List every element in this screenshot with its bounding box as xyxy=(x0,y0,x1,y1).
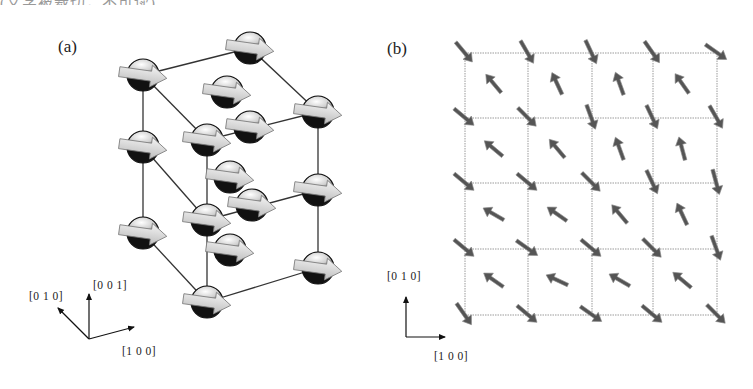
spin-arrow-icon xyxy=(545,136,569,161)
spin-arrow-icon xyxy=(480,203,506,225)
spin-arrow-icon xyxy=(451,104,478,129)
spin-arrow-icon xyxy=(451,235,478,260)
spin-arrow-icon xyxy=(705,103,728,131)
spin-arrow-icon xyxy=(642,103,663,131)
atom-sphere xyxy=(182,286,233,318)
panel-b-label: (b) xyxy=(387,39,407,59)
atom-sphere xyxy=(293,252,344,284)
spin-arrow-icon xyxy=(610,70,629,96)
axis-a-z-label: [0 0 1] xyxy=(93,279,127,291)
spin-arrow-icon xyxy=(671,71,694,97)
spin-arrow-icon xyxy=(707,168,724,196)
atom-sphere xyxy=(182,124,233,156)
atom-sphere xyxy=(118,217,169,249)
spin-arrow-icon xyxy=(608,201,632,226)
spin-arrow-icon xyxy=(639,235,665,261)
spin-arrow-icon xyxy=(482,71,506,96)
spin-arrow-icon xyxy=(481,137,506,161)
figure-canvas xyxy=(0,0,753,389)
atom-sphere xyxy=(182,204,233,236)
spin-arrow-icon xyxy=(639,301,666,326)
spin-arrow-icon xyxy=(451,169,478,194)
atom-sphere xyxy=(205,234,256,266)
spin-arrow-icon xyxy=(703,301,729,327)
spin-arrow-icon xyxy=(674,135,691,161)
atom-sphere xyxy=(225,32,276,64)
spin-arrow-icon xyxy=(547,70,567,96)
spin-arrow-icon xyxy=(669,268,694,292)
axis-b-y-label: [0 1 0] xyxy=(387,270,421,282)
spin-arrow-icon xyxy=(544,203,570,226)
spin-arrow-icon xyxy=(672,201,692,227)
spin-arrow-icon xyxy=(640,38,664,66)
spin-arrow-icon xyxy=(514,169,541,194)
axes-a xyxy=(58,294,134,339)
axis-b-x-label: [1 0 0] xyxy=(434,350,468,362)
spin-arrow-icon xyxy=(578,169,604,195)
atom-sphere xyxy=(293,174,344,206)
spin-arrow-icon xyxy=(702,40,730,64)
spin-arrow-icon xyxy=(606,269,632,291)
atom-sphere xyxy=(205,161,256,193)
atom-sphere xyxy=(227,189,278,221)
atom-sphere xyxy=(225,111,276,143)
spin-arrow-icon xyxy=(452,300,476,328)
axis-a-x-label: [1 0 0] xyxy=(122,345,156,357)
spin-arrow-icon xyxy=(578,235,605,260)
atom-sphere xyxy=(293,96,344,128)
panel-a-label: (a) xyxy=(58,37,77,57)
spin-arrow-icon xyxy=(544,270,570,290)
spin-arrow-icon xyxy=(481,269,507,292)
spin-arrow-icon xyxy=(516,38,539,66)
spin-arrow-icon xyxy=(642,168,663,196)
spin-arrow-icon xyxy=(514,104,540,130)
spin-arrow-icon xyxy=(581,38,602,66)
atom-sphere xyxy=(202,76,253,108)
spin-arrow-icon xyxy=(610,135,629,161)
spin-arrow-icon xyxy=(451,39,476,66)
axes-b xyxy=(406,297,445,337)
atom-sphere xyxy=(118,59,169,91)
spin-arrow-icon xyxy=(581,103,600,131)
spin-arrow-icon xyxy=(577,302,605,326)
axis-a-y-label: [0 1 0] xyxy=(29,290,63,302)
spin-arrow-icon xyxy=(706,234,725,262)
lattice-atoms xyxy=(118,32,344,318)
atom-sphere xyxy=(118,131,169,163)
spin-arrow-icon xyxy=(513,236,541,260)
spin-arrow-icon xyxy=(514,301,541,326)
